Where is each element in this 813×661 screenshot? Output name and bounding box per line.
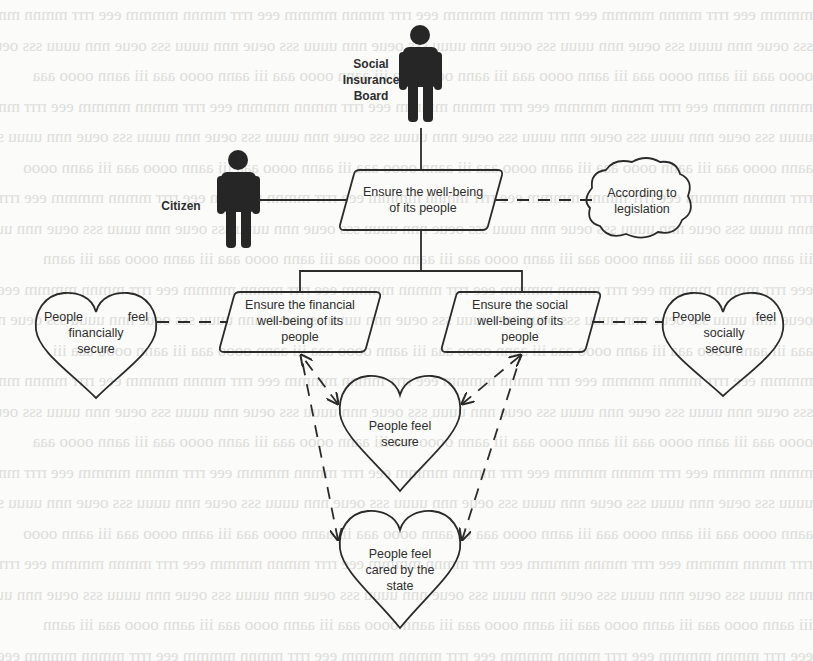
heart-cared-line: state: [350, 578, 450, 594]
heart-cared-line: People feel: [350, 546, 450, 562]
heart-secure-line: secure: [350, 434, 450, 450]
heart-social-first-line: People feel: [672, 309, 776, 325]
goal-financial-line: people: [230, 329, 370, 345]
board-label-line: Board: [336, 88, 406, 104]
goal-financial-label: Ensure the financial well-being of its p…: [230, 297, 370, 345]
heart-social-line: secure: [672, 341, 776, 357]
citizen-actor-label: Citizen: [150, 198, 212, 214]
heart-social-word: feel: [756, 309, 776, 325]
goal-financial-line: well-being of its: [230, 313, 370, 329]
cloud-label: According to legislation: [596, 185, 688, 217]
goal-social-line: people: [450, 329, 590, 345]
heart-financial-label: People feel financially secure: [44, 309, 148, 357]
cloud-line: legislation: [596, 201, 688, 217]
cared-to-social-dashed-arrow: [462, 355, 521, 540]
secure-to-financial-dashed-arrow: [301, 355, 338, 404]
heart-financial-line: secure: [44, 341, 148, 357]
secure-to-social-dashed-arrow: [462, 355, 521, 404]
board-label-line: Insurance: [336, 72, 406, 88]
board-label-line: Social: [336, 56, 406, 72]
goal-social-line: well-being of its: [450, 313, 590, 329]
citizen-actor-icon: [217, 150, 260, 248]
goal-top-line: of its people: [352, 200, 494, 216]
heart-social-word: People: [672, 309, 711, 325]
goal-social-label: Ensure the social well-being of its peop…: [450, 297, 590, 345]
heart-social-label: People feel socially secure: [672, 309, 776, 357]
heart-cared-label: People feel cared by the state: [350, 546, 450, 594]
cared-to-financial-dashed-arrow: [301, 355, 338, 540]
heart-financial-word: People: [44, 309, 83, 325]
heart-secure-label: People feel secure: [350, 418, 450, 450]
heart-secure-line: People feel: [350, 418, 450, 434]
heart-cared-line: cared by the: [350, 562, 450, 578]
board-actor-label: Social Insurance Board: [336, 56, 406, 104]
heart-financial-first-line: People feel: [44, 309, 148, 325]
goal-top-line: Ensure the well-being: [352, 184, 494, 200]
cloud-line: According to: [596, 185, 688, 201]
heart-financial-word: feel: [128, 309, 148, 325]
subgoal-branch-line: [300, 271, 522, 292]
goal-financial-line: Ensure the financial: [230, 297, 370, 313]
goal-social-line: Ensure the social: [450, 297, 590, 313]
heart-social-line: socially: [672, 325, 776, 341]
goal-top-label: Ensure the well-being of its people: [352, 184, 494, 216]
heart-financial-line: financially: [44, 325, 148, 341]
